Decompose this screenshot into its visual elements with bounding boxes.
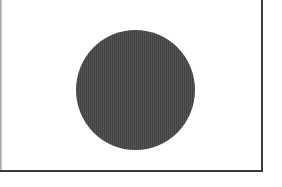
dark-circle: [76, 30, 195, 150]
frame-right-border: [261, 0, 263, 172]
frame-bottom-border: [0, 170, 263, 172]
frame-left-border: [0, 0, 2, 172]
image-canvas: [0, 0, 282, 187]
